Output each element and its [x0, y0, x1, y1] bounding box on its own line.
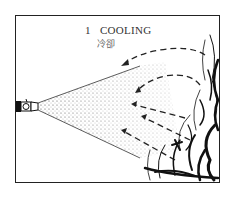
- cooling-illustration: [0, 0, 237, 198]
- nozzle-icon: [16, 99, 38, 112]
- water-spray-cone: [38, 62, 180, 158]
